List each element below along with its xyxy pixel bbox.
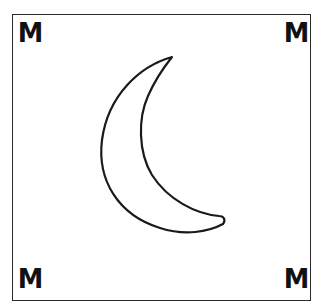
crescent-moon-icon [0,0,322,305]
